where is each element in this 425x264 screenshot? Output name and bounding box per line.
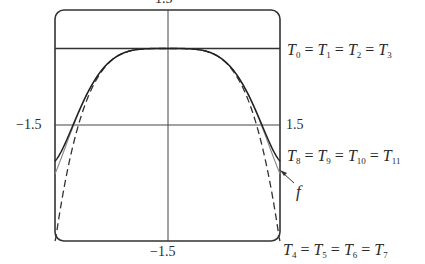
left-tick-label: −1.5: [16, 118, 41, 132]
top-tick-label: 1.5: [155, 0, 173, 6]
legend-t4-t7: T4 = T5 = T6 = T7: [283, 242, 388, 260]
f-label: f: [296, 182, 301, 201]
bottom-tick-label: −1.5: [150, 245, 175, 259]
legend-t0-t3: T0 = T1 = T2 = T3: [287, 42, 392, 60]
legend-t8-t11: T8 = T9 = T10 = T11: [287, 148, 400, 166]
right-tick-label: 1.5: [286, 118, 304, 132]
legend-f: f: [296, 183, 301, 200]
plot-area: [0, 0, 425, 264]
